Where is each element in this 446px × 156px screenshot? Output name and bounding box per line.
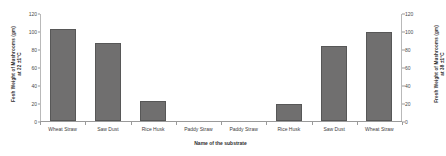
x-category-label-1: Saw Dust <box>85 126 130 132</box>
y-axis-left-title: Fesh Weight of Mushrooms (gm) at 22 ±1°C <box>11 10 23 118</box>
y-tick-mark-right <box>402 86 405 87</box>
y-axis-right-title-main: Fresh Weight of Mushrooms (gm) <box>434 25 439 103</box>
x-tick-mark <box>357 122 358 125</box>
y-tick-mark-right <box>402 104 405 105</box>
y-tick-label-left: 100 <box>29 30 37 35</box>
x-category-label-3: Paddy Straw <box>176 126 221 132</box>
bar-slot <box>131 14 176 121</box>
bar-saw-dust-1[interactable] <box>95 43 121 121</box>
x-axis-category-labels: Wheat StrawSaw DustRice HuskPaddy StrawP… <box>40 126 402 132</box>
x-tick-mark <box>176 122 177 125</box>
bar-slot <box>40 14 85 121</box>
x-axis-ticks <box>40 122 402 125</box>
x-tick-mark <box>402 122 403 125</box>
y-axis-left-title-main: Fesh Weight of Mushrooms (gm) <box>11 26 16 102</box>
bar-wheat-straw-0[interactable] <box>50 29 76 121</box>
bar-saw-dust-6[interactable] <box>321 46 347 121</box>
bar-slot <box>312 14 357 121</box>
y-tick-label-right: 0 <box>405 120 408 125</box>
y-tick-label-right: 100 <box>405 30 413 35</box>
y-tick-label-right: 60 <box>405 66 411 71</box>
x-category-label-7: Wheat Straw <box>357 126 402 132</box>
bar-slot <box>357 14 402 121</box>
y-tick-label-right: 120 <box>405 12 413 17</box>
y-tick-label-right: 20 <box>405 102 411 107</box>
bar-slot <box>221 14 266 121</box>
y-axis-right-title-sub: at 38 ±1°C <box>440 10 446 118</box>
plot-area: 020406080100120 020406080100120 <box>40 14 402 122</box>
bar-rice-husk-2[interactable] <box>140 101 166 121</box>
x-category-label-6: Saw Dust <box>312 126 357 132</box>
y-tick-label-left: 80 <box>31 48 37 53</box>
y-tick-mark-right <box>402 14 405 15</box>
x-tick-mark <box>40 122 41 125</box>
y-tick-label-left: 60 <box>31 66 37 71</box>
x-axis-title: Name of the substrate <box>0 140 441 146</box>
y-tick-label-right: 80 <box>405 48 411 53</box>
bar-wheat-straw-7[interactable] <box>366 32 392 121</box>
x-category-label-2: Rice Husk <box>131 126 176 132</box>
x-tick-mark <box>85 122 86 125</box>
bar-slot <box>176 14 221 121</box>
y-tick-label-left: 120 <box>29 12 37 17</box>
bar-rice-husk-5[interactable] <box>276 104 302 121</box>
x-tick-mark <box>312 122 313 125</box>
x-tick-mark <box>131 122 132 125</box>
y-axis-left-title-sub: at 22 ±1°C <box>17 10 23 118</box>
y-axis-right-title: Fresh Weight of Mushrooms (gm) at 38 ±1°… <box>434 10 446 118</box>
y-tick-label-left: 40 <box>31 84 37 89</box>
x-tick-mark <box>266 122 267 125</box>
bar-slot <box>85 14 130 121</box>
y-tick-mark-right <box>402 32 405 33</box>
x-category-label-5: Rice Husk <box>266 126 311 132</box>
x-category-label-0: Wheat Straw <box>40 126 85 132</box>
x-tick-mark <box>221 122 222 125</box>
y-tick-mark-right <box>402 68 405 69</box>
x-category-label-4: Paddy Straw <box>221 126 266 132</box>
y-tick-label-right: 40 <box>405 84 411 89</box>
bar-slot <box>266 14 311 121</box>
y-tick-mark-right <box>402 50 405 51</box>
y-tick-label-left: 20 <box>31 102 37 107</box>
bars-layer <box>40 14 402 121</box>
